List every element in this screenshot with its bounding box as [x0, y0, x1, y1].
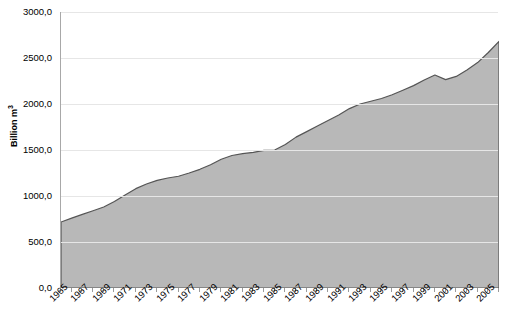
gridline: [61, 242, 498, 243]
gridline: [61, 58, 498, 59]
y-axis-tick-label: 500,0: [6, 237, 52, 247]
gridline: [61, 196, 498, 197]
y-axis-tick-label: 3000,0: [6, 7, 52, 17]
y-axis-tick-labels: 0,0500,01000,01500,02000,02500,03000,0: [4, 0, 52, 328]
y-axis-tick-label: 2000,0: [6, 99, 52, 109]
y-axis-tick-label: 2500,0: [6, 53, 52, 63]
y-axis-tick-label: 1000,0: [6, 191, 52, 201]
y-axis-tick-label: 1500,0: [6, 145, 52, 155]
plot-area: [60, 12, 498, 288]
gridline: [61, 150, 498, 151]
x-axis-tick-labels: 1965196719691971197319751977197919811983…: [0, 292, 510, 328]
gridline: [61, 104, 498, 105]
area-chart: Billion m3 0,0500,01000,01500,02000,0250…: [0, 0, 510, 328]
